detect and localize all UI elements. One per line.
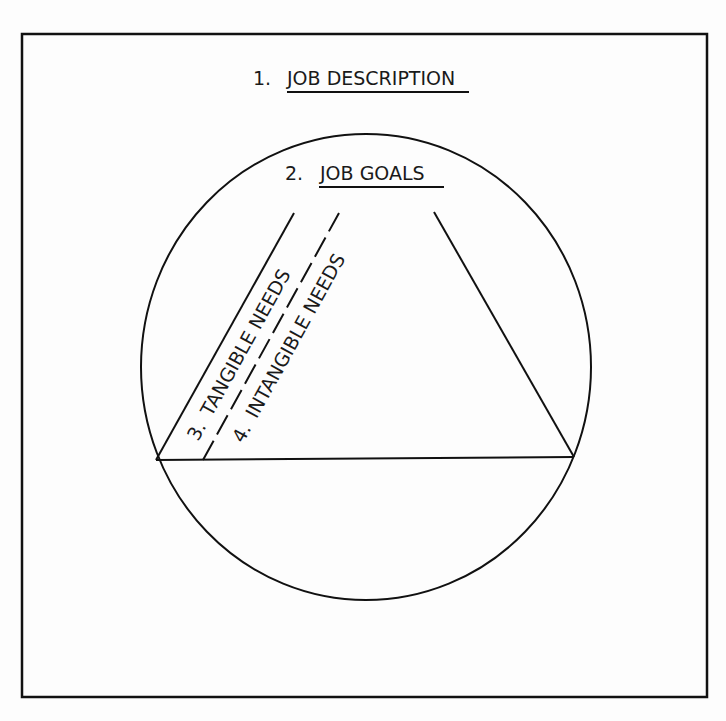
right-side-line <box>434 212 574 457</box>
triangle <box>156 212 574 460</box>
tangible-needs-line <box>156 213 294 460</box>
job-description-number: 1. <box>253 67 271 89</box>
base-line <box>156 457 574 460</box>
job-goals-label: 2. JOB GOALS <box>285 162 444 187</box>
job-goals-number: 2. <box>285 162 303 184</box>
intangible-needs-number: 4. <box>227 419 255 446</box>
job-description-label: 1. JOB DESCRIPTION <box>253 67 469 92</box>
intangible-needs-dashed-line <box>203 213 339 460</box>
job-diagram: 1. JOB DESCRIPTION 2. JOB GOALS 3. TANGI… <box>0 0 726 721</box>
job-goals-text: JOB GOALS <box>319 162 425 184</box>
job-description-text: JOB DESCRIPTION <box>286 67 455 89</box>
tangible-needs-number: 3. <box>182 417 210 444</box>
